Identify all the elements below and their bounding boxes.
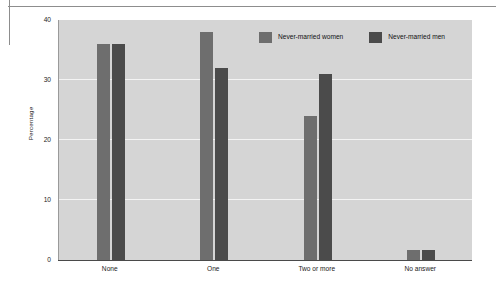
x-axis-line [58, 260, 472, 261]
x-axis-tick-label: No answer [404, 266, 436, 273]
y-axis-tick-label: 0 [47, 257, 51, 264]
bar [112, 44, 125, 260]
x-axis-tick-label: None [102, 266, 118, 273]
bar-group [304, 20, 332, 260]
y-axis-tick-label: 40 [44, 17, 51, 24]
bar [422, 250, 435, 260]
x-axis-tick-labels: NoneOneTwo or moreNo answer [58, 266, 472, 286]
legend-item-never-married-women: Never-married women [259, 32, 343, 43]
bar-series-layer [59, 20, 472, 260]
plot-area: Never-married women Never-married men [58, 20, 472, 260]
bar-group [200, 20, 228, 260]
bar-group [97, 20, 125, 260]
x-axis-tick-label: Two or more [298, 266, 335, 273]
y-axis-tick-label: 20 [44, 137, 51, 144]
legend-swatch-icon-men [369, 32, 382, 43]
legend-label-men: Never-married men [388, 34, 445, 41]
y-axis-tick-label: 30 [44, 77, 51, 84]
bar [215, 68, 228, 260]
bar [200, 32, 213, 260]
bar [304, 116, 317, 260]
y-axis-tick-labels: 010203040 [0, 0, 56, 300]
legend-label-women: Never-married women [278, 34, 343, 41]
x-axis-tick-label: One [207, 266, 219, 273]
chart-legend: Never-married women Never-married men [259, 32, 445, 43]
y-axis-tick-label: 10 [44, 197, 51, 204]
bar [97, 44, 110, 260]
bar-group [407, 20, 435, 260]
legend-item-never-married-men: Never-married men [369, 32, 445, 43]
bar-chart-figure: Percentage 010203040 Never-married women… [0, 0, 496, 300]
bar [407, 250, 420, 260]
bar [319, 74, 332, 260]
legend-swatch-icon-women [259, 32, 272, 43]
